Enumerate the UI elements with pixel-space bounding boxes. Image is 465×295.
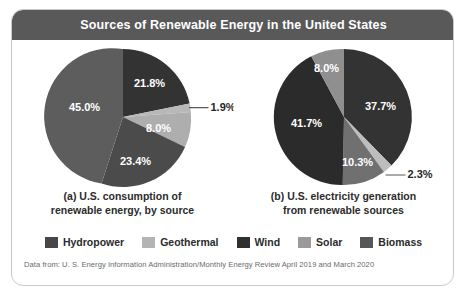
legend-item-biomass: Biomass [360, 236, 422, 248]
charts-area: 21.8% 1.9% 8.0% 23.4% 45.0% (a) U.S. con… [12, 40, 454, 230]
pie-b-label-hydropower: 41.7% [290, 117, 321, 129]
pie-a-label-solar: 8.0% [145, 122, 170, 134]
pie-b-label-geothermal: 8.0% [313, 62, 338, 74]
pie-chart-b-caption-line2: from renewable sources [233, 204, 454, 218]
pie-a-label-wind: 21.8% [133, 77, 164, 89]
legend-swatch-biomass-icon [360, 237, 373, 248]
legend-item-wind: Wind [237, 236, 281, 248]
pie-a-label-biomass: 23.4% [119, 155, 150, 167]
legend-item-geothermal: Geothermal [142, 236, 218, 248]
legend-swatch-geothermal-icon [142, 237, 155, 248]
legend-item-solar: Solar [298, 236, 342, 248]
pie-chart-b-caption-line1: (b) U.S. electricity generation [233, 190, 454, 204]
legend-label-hydropower: Hydropower [63, 236, 124, 248]
legend-item-hydropower: Hydropower [45, 236, 124, 248]
legend-swatch-solar-icon [298, 237, 311, 248]
figure-source-note: Data from: U. S. Energy Information Admi… [24, 260, 449, 269]
pie-chart-b: 37.7% 2.3% 10.3% 41.7% 8.0% [233, 44, 454, 190]
pie-chart-a-caption: (a) U.S. consumption of renewable energy… [12, 190, 233, 217]
figure-title-bar: Sources of Renewable Energy in the Unite… [12, 10, 454, 40]
pie-chart-a-block: 21.8% 1.9% 8.0% 23.4% 45.0% (a) U.S. con… [12, 40, 233, 230]
pie-b-label-solar: 2.3% [407, 168, 432, 180]
pie-chart-a: 21.8% 1.9% 8.0% 23.4% 45.0% [12, 44, 233, 190]
pie-chart-b-caption: (b) U.S. electricity generation from ren… [233, 190, 454, 217]
legend-swatch-hydropower-icon [45, 237, 58, 248]
pie-a-label-hydropower: 45.0% [68, 101, 99, 113]
pie-b-label-biomass: 10.3% [341, 156, 372, 168]
legend-label-wind: Wind [255, 236, 281, 248]
chart-legend: Hydropower Geothermal Wind Solar Biomass [12, 232, 454, 252]
figure-card: Sources of Renewable Energy in the Unite… [11, 9, 454, 286]
legend-label-geothermal: Geothermal [160, 236, 218, 248]
pie-chart-a-caption-line2: renewable energy, by source [12, 204, 233, 218]
pie-a-label-geothermal: 1.9% [210, 101, 233, 113]
legend-label-solar: Solar [316, 236, 342, 248]
figure-title: Sources of Renewable Energy in the Unite… [80, 18, 387, 32]
pie-chart-a-caption-line1: (a) U.S. consumption of [12, 190, 233, 204]
legend-swatch-wind-icon [237, 237, 250, 248]
pie-chart-b-block: 37.7% 2.3% 10.3% 41.7% 8.0% (b) U.S. ele… [233, 40, 454, 230]
legend-label-biomass: Biomass [378, 236, 422, 248]
pie-b-label-wind: 37.7% [364, 100, 395, 112]
